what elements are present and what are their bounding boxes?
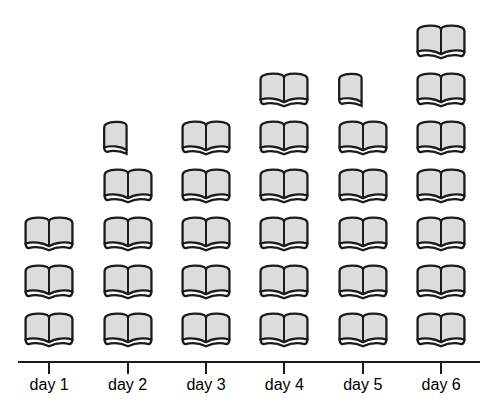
open-book-icon (336, 262, 390, 302)
open-book-icon (336, 310, 390, 350)
open-book-icon (179, 310, 233, 350)
open-book-icon (336, 118, 390, 158)
open-book-icon (336, 166, 390, 206)
x-axis-label-day-5: day 5 (324, 376, 402, 394)
icon-slot-full (179, 118, 233, 158)
x-axis-label-day-3: day 3 (167, 376, 245, 394)
open-book-icon (257, 166, 311, 206)
icon-slot-full (179, 310, 233, 350)
icon-slot-full (414, 118, 468, 158)
icon-slot-full (336, 214, 390, 254)
icon-slot-half (101, 118, 155, 158)
icon-slot-full (414, 310, 468, 350)
pictograph-column-day-1 (10, 0, 88, 350)
icon-slot-full (414, 166, 468, 206)
open-book-icon (336, 214, 390, 254)
icon-slot-full (101, 262, 155, 302)
open-book-icon (179, 166, 233, 206)
open-book-icon (414, 262, 468, 302)
pictograph-columns (10, 0, 481, 350)
open-book-icon (257, 118, 311, 158)
open-book-icon (414, 310, 468, 350)
icon-slot-full (22, 262, 76, 302)
half-open-book-icon (336, 70, 364, 110)
icon-slot-full (22, 214, 76, 254)
icon-slot-full (414, 262, 468, 302)
pictograph-chart: day 1day 2day 3day 4day 5day 6 (0, 0, 501, 416)
icon-slot-full (336, 118, 390, 158)
icon-slot-half (336, 70, 390, 110)
icon-slot-full (336, 310, 390, 350)
icon-slot-full (179, 262, 233, 302)
icon-slot-full (179, 166, 233, 206)
x-axis-label-day-2: day 2 (89, 376, 167, 394)
icon-slot-full (257, 310, 311, 350)
open-book-icon (257, 310, 311, 350)
x-axis-tick-5 (362, 361, 364, 374)
open-book-icon (179, 118, 233, 158)
open-book-icon (101, 262, 155, 302)
icon-slot-full (257, 166, 311, 206)
open-book-icon (414, 214, 468, 254)
x-axis-label-day-4: day 4 (245, 376, 323, 394)
icon-slot-full (414, 70, 468, 110)
open-book-icon (179, 262, 233, 302)
open-book-icon (414, 22, 468, 62)
open-book-icon (257, 262, 311, 302)
open-book-icon (414, 70, 468, 110)
icon-slot-full (336, 166, 390, 206)
x-axis-tick-4 (283, 361, 285, 374)
icon-slot-full (257, 214, 311, 254)
icon-slot-full (101, 214, 155, 254)
open-book-icon (22, 310, 76, 350)
x-axis-tick-2 (127, 361, 129, 374)
open-book-icon (101, 166, 155, 206)
pictograph-column-day-4 (245, 0, 323, 350)
icon-slot-full (101, 310, 155, 350)
pictograph-column-day-3 (167, 0, 245, 350)
x-axis-line (18, 361, 480, 363)
pictograph-column-day-6 (402, 0, 480, 350)
icon-slot-full (257, 70, 311, 110)
x-axis-tick-1 (48, 361, 50, 374)
x-axis-tick-3 (205, 361, 207, 374)
open-book-icon (179, 214, 233, 254)
icon-slot-full (336, 262, 390, 302)
icon-slot-full (257, 118, 311, 158)
open-book-icon (101, 214, 155, 254)
icon-slot-full (179, 214, 233, 254)
x-axis-label-day-1: day 1 (10, 376, 88, 394)
half-open-book-icon (101, 118, 129, 158)
icon-slot-full (414, 22, 468, 62)
open-book-icon (22, 214, 76, 254)
pictograph-column-day-2 (88, 0, 166, 350)
open-book-icon (414, 166, 468, 206)
icon-slot-full (414, 214, 468, 254)
icon-slot-full (101, 166, 155, 206)
open-book-icon (257, 214, 311, 254)
icon-slot-full (257, 262, 311, 302)
pictograph-column-day-5 (324, 0, 402, 350)
x-axis-label-day-6: day 6 (402, 376, 480, 394)
open-book-icon (22, 262, 76, 302)
open-book-icon (101, 310, 155, 350)
x-axis-tick-6 (440, 361, 442, 374)
icon-slot-full (22, 310, 76, 350)
open-book-icon (414, 118, 468, 158)
open-book-icon (257, 70, 311, 110)
